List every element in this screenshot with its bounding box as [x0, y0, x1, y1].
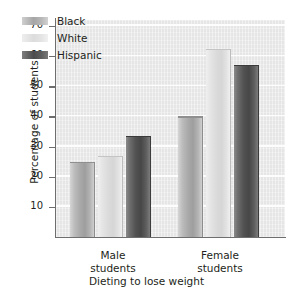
y-tick-mark: [49, 86, 55, 87]
category-label-male-line1: Male: [101, 249, 126, 261]
legend-item-black: Black: [22, 12, 102, 29]
bar-black-female: [178, 116, 203, 237]
y-tick-label: 10: [15, 200, 43, 211]
bar-top-edge: [126, 136, 150, 137]
bar-white-female: [206, 49, 231, 237]
category-label-male: Male students: [68, 249, 158, 275]
y-tick-label: 40: [15, 109, 43, 120]
legend-label-black: Black: [57, 15, 85, 27]
legend-label-hispanic: Hispanic: [57, 49, 102, 61]
category-label-female: Female students: [175, 249, 265, 275]
legend: Black White Hispanic: [22, 12, 102, 63]
y-tick-mark: [49, 147, 55, 148]
bar-black-male: [70, 162, 95, 237]
bar-top-edge: [178, 116, 202, 117]
x-axis-title: Dieting to lose weight: [0, 275, 293, 287]
legend-item-hispanic: Hispanic: [22, 46, 102, 63]
x-axis-line: [55, 237, 286, 238]
bar-top-edge: [234, 65, 258, 66]
category-label-female-line1: Female: [201, 249, 239, 261]
bar-hispanic-male: [126, 136, 151, 237]
category-label-male-line2: students: [68, 262, 158, 275]
bar-top-edge: [98, 156, 122, 157]
y-tick-label: 30: [15, 140, 43, 151]
legend-item-white: White: [22, 29, 102, 46]
category-label-female-line2: students: [175, 262, 265, 275]
y-tick-label: 20: [15, 170, 43, 181]
bar-white-male: [98, 156, 123, 237]
bar-top-edge: [70, 162, 94, 163]
bar-top-edge: [206, 49, 230, 50]
legend-swatch-icon-white: [22, 34, 48, 42]
bar-chart-figure: Percentage of students 10203040506070 Bl…: [0, 0, 293, 294]
bar-hispanic-female: [234, 65, 259, 237]
y-tick-mark: [49, 177, 55, 178]
y-tick-mark: [49, 207, 55, 208]
y-tick-mark: [49, 116, 55, 117]
legend-label-white: White: [57, 32, 88, 44]
y-tick-label: 50: [15, 79, 43, 90]
legend-swatch-icon-hispanic: [22, 51, 48, 59]
legend-swatch-icon-black: [22, 17, 48, 25]
